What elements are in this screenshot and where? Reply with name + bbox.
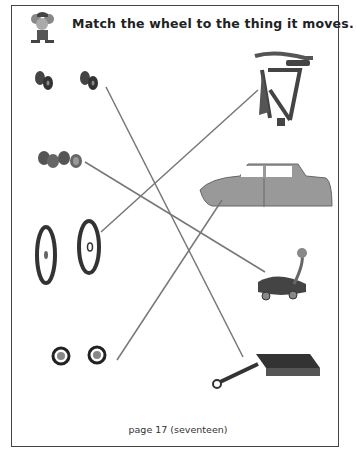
bicycle-frame-icon[interactable]: [255, 53, 313, 126]
match-line-car-wheels-wagon: [106, 87, 243, 357]
small-wheels-icon[interactable]: [38, 151, 82, 168]
small-round-wheels-icon[interactable]: [53, 347, 105, 364]
wagon-icon[interactable]: [213, 354, 320, 388]
match-line-bike-wheels-bicycle: [101, 90, 258, 232]
ride-on-toy-icon[interactable]: [258, 248, 307, 300]
match-line-wagon-wheels-car: [117, 200, 222, 360]
worksheet-art: [0, 0, 356, 464]
page-number: page 17 (seventeen): [0, 424, 356, 435]
match-lines: [85, 87, 265, 360]
car-body-icon[interactable]: [200, 164, 332, 207]
dark-tire-pairs-icon[interactable]: [35, 71, 98, 90]
mouse-mascot-icon: [31, 12, 54, 43]
spoked-bike-wheels-icon[interactable]: [37, 221, 99, 283]
